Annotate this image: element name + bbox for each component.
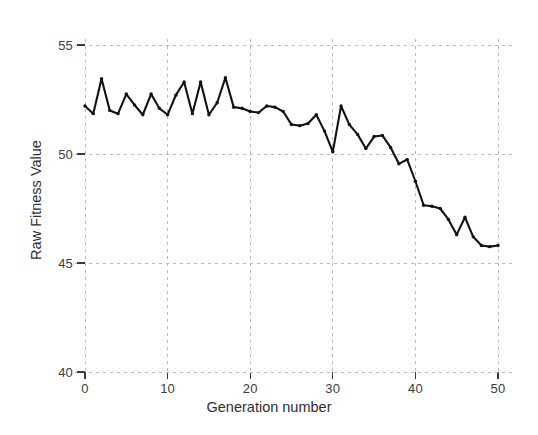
data-point xyxy=(381,134,384,137)
data-point xyxy=(323,129,326,132)
series-line xyxy=(85,78,498,247)
x-tick-label: 0 xyxy=(81,381,88,396)
y-tick-label: 45 xyxy=(58,256,73,271)
data-point xyxy=(108,109,111,112)
data-point xyxy=(249,110,252,113)
data-point xyxy=(83,104,86,107)
data-point xyxy=(282,110,285,113)
data-point xyxy=(339,104,342,107)
data-point xyxy=(133,103,136,106)
data-point xyxy=(496,244,499,247)
x-tick-label: 50 xyxy=(491,381,506,396)
data-point xyxy=(125,92,128,95)
data-point xyxy=(257,111,260,114)
data-point xyxy=(438,207,441,210)
data-point xyxy=(331,150,334,153)
data-point xyxy=(166,113,169,116)
data-point xyxy=(414,180,417,183)
data-point xyxy=(290,123,293,126)
data-point xyxy=(364,147,367,150)
data-point xyxy=(207,113,210,116)
data-point xyxy=(141,113,144,116)
data-point xyxy=(265,104,268,107)
data-point xyxy=(430,205,433,208)
x-tick-label: 30 xyxy=(325,381,340,396)
data-point xyxy=(389,146,392,149)
y-tick-label: 55 xyxy=(58,38,73,53)
data-point xyxy=(116,112,119,115)
data-point xyxy=(273,105,276,108)
data-series-layer xyxy=(85,45,498,372)
data-point xyxy=(422,204,425,207)
data-point xyxy=(182,80,185,83)
data-point xyxy=(315,113,318,116)
data-point xyxy=(472,235,475,238)
data-point xyxy=(447,218,450,221)
data-point xyxy=(463,216,466,219)
data-point xyxy=(158,107,161,110)
data-point xyxy=(191,112,194,115)
data-point xyxy=(232,105,235,108)
data-point xyxy=(298,124,301,127)
data-point xyxy=(488,245,491,248)
data-point xyxy=(100,77,103,80)
figure-canvas: Raw Fitness Value Generation number 4045… xyxy=(0,0,538,435)
x-tick-label: 40 xyxy=(408,381,423,396)
data-point xyxy=(405,158,408,161)
y-axis-title: Raw Fitness Value xyxy=(28,140,44,260)
data-point xyxy=(356,133,359,136)
data-point xyxy=(199,80,202,83)
data-point xyxy=(92,112,95,115)
data-point xyxy=(455,233,458,236)
x-axis-title: Generation number xyxy=(207,399,332,415)
x-tick-label: 20 xyxy=(243,381,258,396)
data-point xyxy=(372,135,375,138)
data-point xyxy=(174,93,177,96)
data-point xyxy=(480,244,483,247)
data-point xyxy=(215,101,218,104)
y-tick-label: 50 xyxy=(58,147,73,162)
data-point xyxy=(149,92,152,95)
y-tick-label: 40 xyxy=(58,365,73,380)
data-point xyxy=(306,122,309,125)
data-point xyxy=(224,76,227,79)
data-point xyxy=(397,162,400,165)
data-point xyxy=(240,107,243,110)
x-tick-label: 10 xyxy=(160,381,175,396)
data-point xyxy=(348,123,351,126)
plot-area xyxy=(85,45,498,372)
